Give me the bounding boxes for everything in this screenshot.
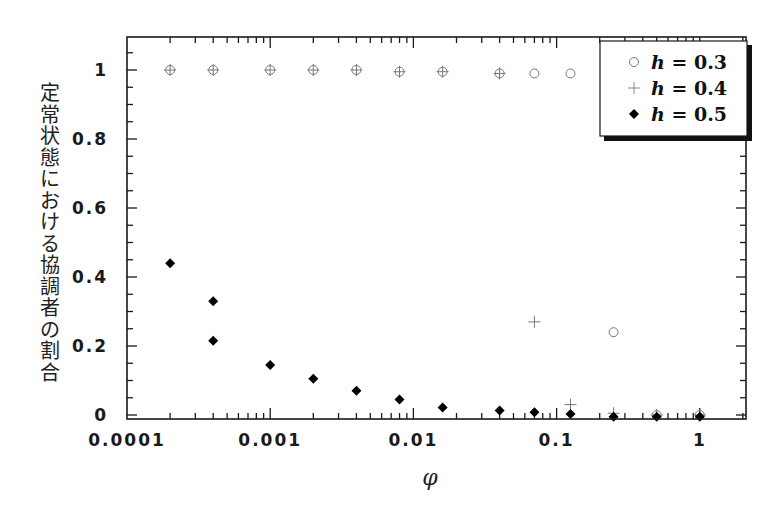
x-tick-label: 0.01 xyxy=(388,430,438,450)
x-tick-labels: 0.00010.0010.010.11 xyxy=(88,430,707,450)
x-axis-label: φ xyxy=(422,465,438,490)
x-tick-label: 0.0001 xyxy=(88,430,166,450)
point-h05 xyxy=(351,386,361,396)
point-h03 xyxy=(566,69,575,78)
point-h04 xyxy=(394,66,406,78)
point-h05 xyxy=(208,336,218,346)
point-h04 xyxy=(207,64,219,76)
y-axis-label-char: 合 xyxy=(40,361,60,385)
y-tick-labels: 00.20.40.60.81 xyxy=(72,60,108,425)
y-tick-label: 0 xyxy=(94,405,108,425)
point-h04 xyxy=(350,64,362,76)
y-tick-label: 0.6 xyxy=(72,198,108,218)
y-tick-label: 0.4 xyxy=(72,267,108,287)
y-axis-label-char: に xyxy=(40,167,60,191)
scatter-chart: 定常状態における協調者の割合 00.20.40.60.81 0.00010.00… xyxy=(0,0,784,519)
legend-label-h03: h = 0.3 xyxy=(651,51,727,73)
legend-label-h04: h = 0.4 xyxy=(651,77,727,99)
legend: h = 0.3 h = 0.4 h = 0.5 xyxy=(600,41,752,141)
y-tick-label: 0.2 xyxy=(72,336,108,356)
y-axis-label-char: 協 xyxy=(40,253,60,277)
point-h05 xyxy=(565,409,575,419)
y-axis-label-char: お xyxy=(40,189,60,213)
x-tick-label: 0.001 xyxy=(238,430,302,450)
point-h03 xyxy=(530,69,539,78)
y-axis-label-char: る xyxy=(40,232,60,256)
point-h03 xyxy=(609,328,618,337)
y-axis-label: 定常状態における協調者の割合 xyxy=(40,81,60,385)
point-h05 xyxy=(395,394,405,404)
point-h04 xyxy=(164,64,176,76)
point-h04 xyxy=(494,67,506,79)
y-axis-label-char: 調 xyxy=(40,275,60,299)
point-h05 xyxy=(652,412,662,422)
y-axis-label-char: 状 xyxy=(40,124,60,148)
point-h04 xyxy=(528,316,540,328)
y-axis-label-char: 常 xyxy=(40,103,60,127)
y-axis-label-char: 定 xyxy=(40,81,60,105)
point-h05 xyxy=(208,296,218,306)
y-axis-label-char: 割 xyxy=(40,339,60,363)
x-tick-label: 1 xyxy=(693,430,707,450)
point-h05 xyxy=(495,406,505,416)
y-axis-label-char: の xyxy=(40,318,60,342)
point-h04 xyxy=(437,66,449,78)
x-tick-label: 0.1 xyxy=(539,430,575,450)
point-h05 xyxy=(529,407,539,417)
point-h05 xyxy=(438,402,448,412)
point-h05 xyxy=(695,412,705,422)
y-axis-label-char: 態 xyxy=(40,146,60,170)
point-h04 xyxy=(264,64,276,76)
y-tick-label: 1 xyxy=(94,60,108,80)
point-h04 xyxy=(307,64,319,76)
point-h05 xyxy=(308,374,318,384)
y-axis-label-char: 者 xyxy=(40,296,60,320)
legend-label-h05: h = 0.5 xyxy=(651,103,727,125)
point-h04 xyxy=(564,399,576,411)
y-axis-label-char: け xyxy=(40,210,60,234)
point-h05 xyxy=(265,360,275,370)
y-tick-label: 0.8 xyxy=(72,129,108,149)
point-h05 xyxy=(165,258,175,268)
